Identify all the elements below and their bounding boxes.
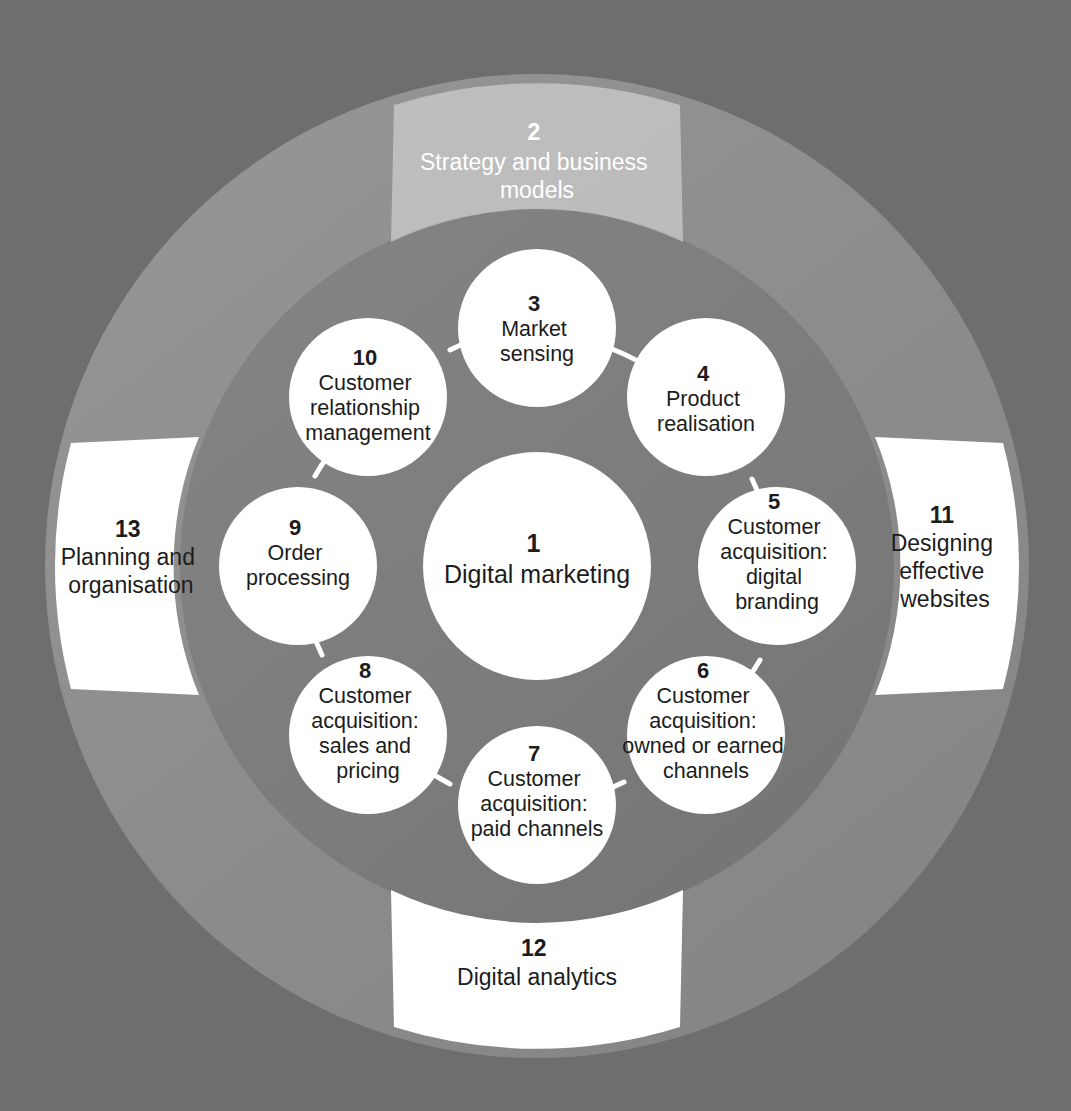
inner-node-9[interactable]: 9 Order processing bbox=[219, 487, 377, 645]
centre-node[interactable]: 1 Digital marketing bbox=[423, 452, 651, 680]
inner-node-5[interactable]: 5 Customer acquisition: digital branding bbox=[698, 487, 856, 645]
inner-node-4[interactable]: 4 Product realisation bbox=[627, 318, 785, 476]
digital-marketing-framework-diagram: 2 Strategy and business models 11 Design… bbox=[0, 0, 1071, 1111]
inner-node-8[interactable]: 8 Customer acquisition: sales and pricin… bbox=[289, 656, 447, 814]
framework-svg: 2 Strategy and business models 11 Design… bbox=[0, 0, 1071, 1111]
inner-node-7[interactable]: 7 Customer acquisition: paid channels bbox=[458, 726, 616, 884]
inner-node-3[interactable]: 3 Market sensing bbox=[458, 249, 616, 407]
outer-segment-13[interactable]: 13 Planning and organisation bbox=[55, 437, 201, 695]
inner-node-10[interactable]: 10 Customer relationship management bbox=[289, 318, 447, 476]
